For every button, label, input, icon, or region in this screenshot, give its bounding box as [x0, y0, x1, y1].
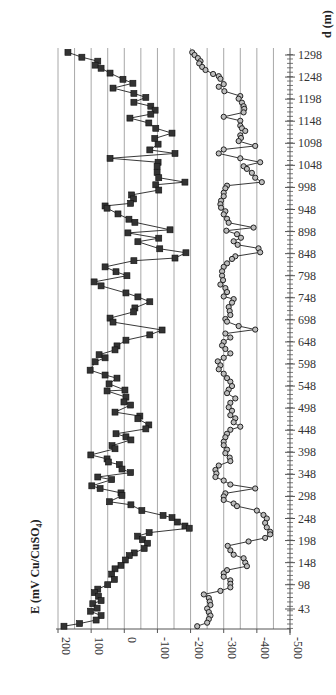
data-point-circle	[233, 396, 238, 401]
data-point-circle	[244, 166, 249, 171]
y-axis-ticks: 4398148198248298348398448498548598648698…	[285, 48, 322, 628]
data-point-square	[107, 155, 113, 161]
y-tick-label: 1098	[298, 136, 322, 150]
data-point-square	[97, 485, 103, 491]
y-tick-label: 348	[298, 467, 316, 481]
data-point-square	[131, 258, 137, 264]
data-point-square	[112, 347, 118, 353]
data-point-square	[104, 388, 110, 394]
data-point-square	[156, 235, 162, 241]
data-point-square	[146, 530, 152, 536]
data-point-circle	[246, 539, 251, 544]
x-tick-label: -200	[192, 637, 206, 659]
data-point-square	[186, 525, 192, 531]
data-point-circle	[221, 478, 226, 483]
data-point-square	[155, 141, 161, 147]
data-point-circle	[218, 76, 223, 81]
data-point-circle	[228, 351, 233, 356]
data-point-square	[135, 239, 141, 245]
data-point-circle	[231, 552, 236, 557]
data-point-square	[98, 598, 104, 604]
data-point-square	[156, 187, 162, 193]
data-point-square	[87, 608, 93, 614]
data-point-square	[121, 399, 127, 405]
data-point-square	[88, 452, 94, 458]
data-point-square	[172, 255, 178, 261]
data-point-circle	[228, 312, 233, 317]
data-point-circle	[226, 220, 231, 225]
data-point-square	[98, 65, 104, 71]
svg-text:E (mV Cu/CuSO4): E (mV Cu/CuSO4)	[28, 520, 44, 614]
data-point-square	[147, 147, 153, 153]
data-point-square	[95, 474, 101, 480]
data-point-square	[102, 372, 108, 378]
data-point-square	[120, 76, 126, 82]
data-point-square	[156, 175, 162, 181]
data-point-square	[174, 519, 180, 525]
data-point-circle	[223, 346, 228, 351]
data-point-circle	[216, 151, 221, 156]
data-point-circle	[228, 335, 233, 340]
data-point-square	[169, 130, 175, 136]
y-axis-title: d (m)	[320, 10, 334, 38]
data-point-square	[104, 205, 110, 211]
data-point-square	[157, 246, 163, 252]
data-point-square	[123, 337, 129, 343]
data-point-circle	[253, 327, 258, 332]
data-point-square	[119, 493, 125, 499]
svg-text:d (m): d (m)	[320, 10, 334, 38]
data-point-square	[91, 279, 97, 285]
y-tick-label: 298	[298, 489, 316, 503]
data-point-circle	[221, 294, 226, 299]
data-point-circle	[213, 474, 218, 479]
data-point-circle	[218, 282, 223, 287]
data-point-circle	[224, 319, 229, 324]
x-tick-label: -500	[291, 637, 305, 659]
data-point-square	[183, 250, 189, 256]
data-point-square	[125, 230, 131, 236]
x-axis-title: E (mV Cu/CuSO4)	[28, 520, 44, 614]
data-point-circle	[268, 532, 273, 537]
data-point-square	[127, 115, 133, 121]
data-point-square	[94, 605, 100, 611]
data-point-square	[154, 163, 160, 169]
data-point-circle	[222, 89, 227, 94]
data-point-circle	[221, 574, 226, 579]
data-point-square	[105, 582, 111, 588]
data-point-square	[143, 94, 149, 100]
data-point-square	[106, 499, 112, 505]
data-point-circle	[238, 235, 243, 240]
data-point-square	[131, 309, 137, 315]
y-tick-label: 498	[298, 401, 316, 415]
x-tick-label: -100	[158, 637, 172, 659]
data-point-circle	[234, 504, 239, 509]
data-point-square	[106, 381, 112, 387]
data-point-circle	[228, 459, 233, 464]
data-point-square	[107, 70, 113, 76]
data-point-circle	[228, 482, 233, 487]
data-point-square	[96, 352, 102, 358]
potential-profile-chart: 2001000-100-200-300-400-500 439814819824…	[0, 0, 336, 695]
data-point-circle	[224, 228, 229, 233]
x-tick-label: -300	[225, 637, 239, 659]
data-point-square	[92, 359, 98, 365]
data-point-square	[143, 426, 149, 432]
data-point-square	[102, 355, 108, 361]
data-point-square	[114, 375, 120, 381]
data-point-square	[122, 387, 128, 393]
data-point-circle	[221, 147, 226, 152]
data-point-square	[128, 200, 134, 206]
data-point-circle	[258, 250, 263, 255]
data-point-square	[79, 54, 85, 60]
x-tick-label: 200	[59, 637, 73, 655]
data-point-square	[65, 49, 71, 55]
x-axis-ticks: 2001000-100-200-300-400-500	[58, 629, 305, 659]
series-circles	[190, 50, 273, 629]
data-point-square	[112, 446, 118, 452]
data-point-circle	[254, 508, 259, 513]
data-point-circle	[216, 84, 221, 89]
data-point-square	[135, 294, 141, 300]
y-tick-label: 1198	[298, 92, 322, 106]
data-point-circle	[238, 156, 243, 161]
data-point-circle	[253, 486, 258, 491]
